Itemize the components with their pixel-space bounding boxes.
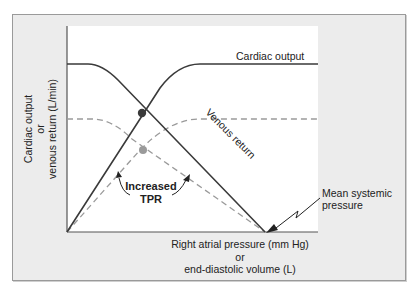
tpr-line2: TPR [120, 193, 182, 206]
x-axis-label-line2: or [140, 251, 340, 264]
cardiac-output-label: Cardiac output [236, 50, 304, 62]
x-axis-label-line3: end-diastolic volume (L) [140, 263, 340, 276]
y-axis-label-line3: venous return (L/min) [46, 79, 58, 179]
cardiac-output-curve-increased-tpr [67, 119, 318, 232]
y-axis-label-line1: Cardiac output [22, 79, 34, 179]
msp-arrow [276, 198, 320, 228]
mean-systemic-pressure-label: Mean systemic pressure [322, 187, 392, 211]
x-axis-label-line1: Right atrial pressure (mm Hg) [140, 238, 340, 251]
msp-line2: pressure [322, 199, 392, 211]
msp-line1: Mean systemic [322, 187, 392, 199]
venous-return-curve [67, 64, 265, 232]
new-equilibrium-point [139, 146, 147, 154]
increased-tpr-annotation: Increased TPR [120, 180, 182, 206]
tpr-line1: Increased [120, 180, 182, 193]
equilibrium-point [138, 109, 146, 117]
y-axis-label-line2: or [34, 79, 46, 179]
x-axis-label: Right atrial pressure (mm Hg) or end-dia… [140, 238, 340, 276]
cardiac-output-curve [67, 64, 318, 232]
